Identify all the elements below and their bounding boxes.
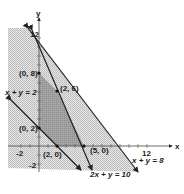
x-axis-label: x — [175, 142, 180, 151]
vertex-label-2-0: (2, 0) — [43, 150, 62, 159]
tick-label-y-12: 12 — [30, 30, 39, 39]
tick-label-y-neg2: -2 — [29, 161, 37, 170]
y-axis-label: y — [36, 9, 41, 18]
tick-label-x-neg2: -2 — [16, 149, 24, 158]
line-label-2x-plus-y-eq-10: 2x + y = 10 — [89, 170, 131, 179]
line-label-x-plus-y-eq-2: x + y = 2 — [4, 88, 37, 97]
vertex-label-5-0: (5, 0) — [90, 146, 109, 155]
stippled-region — [8, 28, 137, 172]
vertex-label-2-6: (2, 6) — [60, 84, 79, 93]
vertex-label-0-8: (0, 8) — [19, 69, 38, 78]
line-label-x-plus-y-eq-8: x + y = 8 — [131, 156, 164, 165]
vertex-label-0-2: (0, 2) — [19, 124, 38, 133]
linear-inequalities-graph: x y -2 12 -2 12 (0, 8) (2, 6) (0, 2) (2,… — [0, 0, 184, 194]
